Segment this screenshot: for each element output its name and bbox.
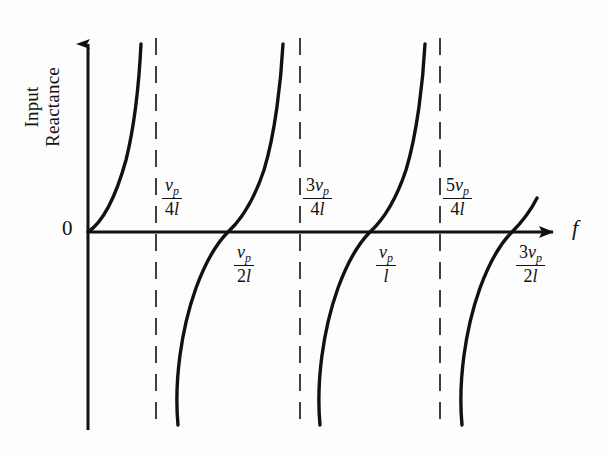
tick-label-vp-over-4l-denominator: 4l	[162, 199, 182, 218]
tick-label-vp-over-l-denominator: l	[376, 266, 396, 285]
tick-label-vp-over-2l-denominator: 2l	[234, 266, 254, 285]
reactance-branch-2	[177, 44, 283, 425]
tick-label-3vp-over-4l: 3vp 4l	[303, 176, 332, 218]
tick-label-3vp-over-4l-denominator: 4l	[303, 199, 332, 218]
tick-label-5vp-over-4l-denominator: 4l	[443, 199, 472, 218]
tick-label-3vp-over-2l-numerator: 3vp	[516, 243, 545, 266]
tick-label-5vp-over-4l: 5vp 4l	[443, 176, 472, 218]
tick-label-vp-over-l: vp l	[376, 243, 396, 285]
origin-label: 0	[62, 218, 73, 239]
x-axis-label: f	[572, 215, 578, 241]
plot-canvas	[0, 0, 609, 454]
tick-label-3vp-over-4l-numerator: 3vp	[303, 176, 332, 199]
tick-label-vp-over-4l: vp 4l	[162, 176, 182, 218]
reactance-branch-3	[319, 44, 425, 425]
tick-label-vp-over-4l-numerator: vp	[162, 176, 182, 199]
tick-label-5vp-over-4l-numerator: 5vp	[443, 176, 472, 199]
tick-label-3vp-over-2l: 3vp 2l	[516, 243, 545, 285]
input-reactance-figure: Input Reactance 0 f vp 4l 3vp 4l 5vp 4l …	[0, 0, 609, 454]
y-axis-label-line2: Reactance	[42, 32, 63, 182]
tick-label-3vp-over-2l-denominator: 2l	[516, 266, 545, 285]
y-axis-label: Input Reactance	[21, 32, 63, 182]
tick-label-vp-over-2l: vp 2l	[234, 243, 254, 285]
tick-label-vp-over-2l-numerator: vp	[234, 243, 254, 266]
reactance-branch-1	[88, 44, 141, 232]
tick-label-vp-over-l-numerator: vp	[376, 243, 396, 266]
y-axis-label-line1: Input	[21, 32, 42, 182]
